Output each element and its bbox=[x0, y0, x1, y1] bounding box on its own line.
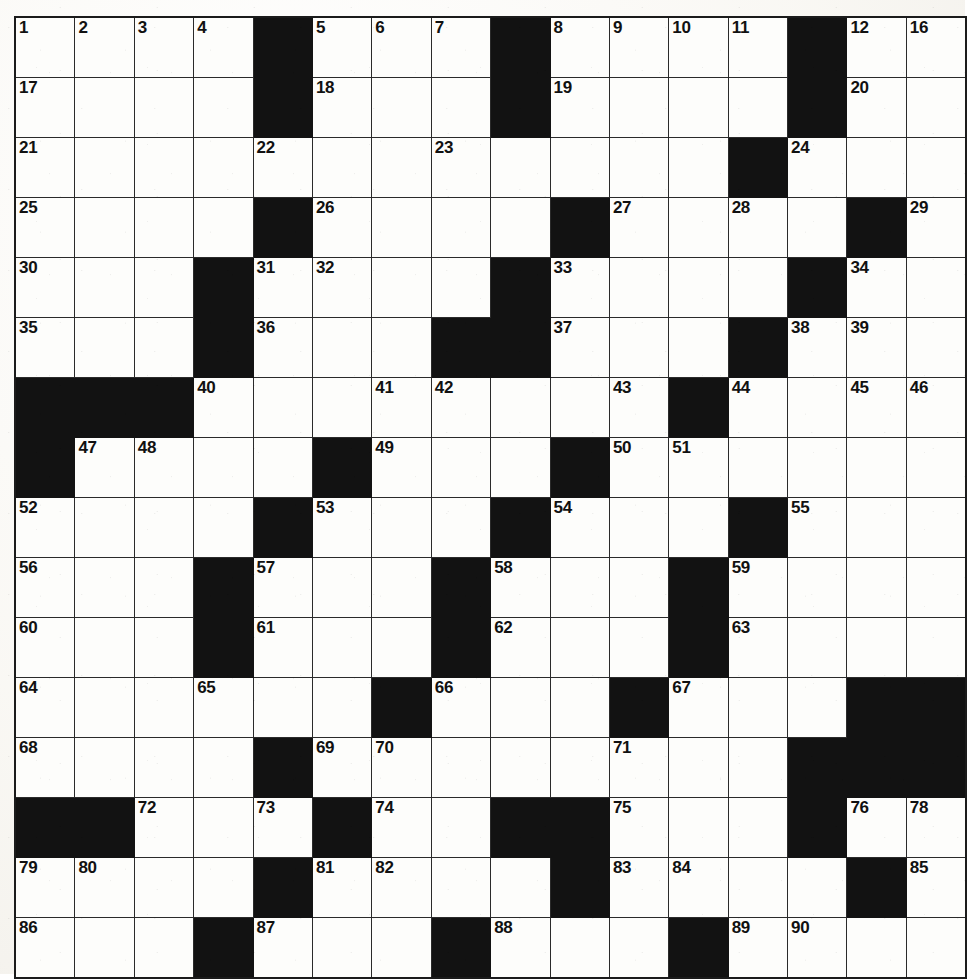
letter-cell[interactable] bbox=[550, 558, 609, 618]
letter-cell[interactable] bbox=[75, 198, 134, 258]
letter-cell[interactable] bbox=[372, 498, 431, 558]
letter-cell[interactable]: 12 bbox=[847, 17, 906, 78]
letter-cell[interactable]: 60 bbox=[15, 618, 75, 678]
letter-cell[interactable] bbox=[728, 258, 787, 318]
letter-cell[interactable] bbox=[550, 618, 609, 678]
letter-cell[interactable]: 2 bbox=[75, 17, 134, 78]
letter-cell[interactable] bbox=[728, 678, 787, 738]
letter-cell[interactable]: 27 bbox=[609, 198, 668, 258]
letter-cell[interactable] bbox=[906, 918, 966, 979]
letter-cell[interactable] bbox=[788, 378, 847, 438]
letter-cell[interactable] bbox=[847, 918, 906, 979]
letter-cell[interactable]: 78 bbox=[906, 798, 966, 858]
letter-cell[interactable]: 18 bbox=[312, 78, 371, 138]
letter-cell[interactable]: 24 bbox=[788, 138, 847, 198]
letter-cell[interactable] bbox=[194, 78, 253, 138]
letter-cell[interactable] bbox=[134, 318, 193, 378]
letter-cell[interactable] bbox=[669, 138, 728, 198]
letter-cell[interactable] bbox=[134, 678, 193, 738]
letter-cell[interactable] bbox=[253, 678, 312, 738]
letter-cell[interactable] bbox=[372, 558, 431, 618]
letter-cell[interactable]: 39 bbox=[847, 318, 906, 378]
letter-cell[interactable]: 63 bbox=[728, 618, 787, 678]
letter-cell[interactable]: 22 bbox=[253, 138, 312, 198]
letter-cell[interactable]: 23 bbox=[431, 138, 490, 198]
letter-cell[interactable]: 7 bbox=[431, 17, 490, 78]
letter-cell[interactable] bbox=[75, 258, 134, 318]
letter-cell[interactable] bbox=[728, 738, 787, 798]
letter-cell[interactable] bbox=[134, 198, 193, 258]
letter-cell[interactable] bbox=[491, 198, 550, 258]
letter-cell[interactable]: 43 bbox=[609, 378, 668, 438]
letter-cell[interactable]: 25 bbox=[15, 198, 75, 258]
letter-cell[interactable] bbox=[75, 318, 134, 378]
letter-cell[interactable]: 35 bbox=[15, 318, 75, 378]
letter-cell[interactable] bbox=[788, 198, 847, 258]
letter-cell[interactable]: 49 bbox=[372, 438, 431, 498]
letter-cell[interactable]: 58 bbox=[491, 558, 550, 618]
letter-cell[interactable]: 4 bbox=[194, 17, 253, 78]
letter-cell[interactable] bbox=[372, 618, 431, 678]
letter-cell[interactable] bbox=[491, 678, 550, 738]
letter-cell[interactable]: 31 bbox=[253, 258, 312, 318]
letter-cell[interactable] bbox=[134, 558, 193, 618]
letter-cell[interactable]: 82 bbox=[372, 858, 431, 918]
letter-cell[interactable] bbox=[134, 78, 193, 138]
letter-cell[interactable]: 73 bbox=[253, 798, 312, 858]
letter-cell[interactable]: 48 bbox=[134, 438, 193, 498]
letter-cell[interactable]: 62 bbox=[491, 618, 550, 678]
letter-cell[interactable] bbox=[312, 378, 371, 438]
letter-cell[interactable]: 81 bbox=[312, 858, 371, 918]
letter-cell[interactable]: 75 bbox=[609, 798, 668, 858]
letter-cell[interactable] bbox=[253, 378, 312, 438]
letter-cell[interactable] bbox=[847, 558, 906, 618]
letter-cell[interactable]: 42 bbox=[431, 378, 490, 438]
letter-cell[interactable] bbox=[253, 438, 312, 498]
letter-cell[interactable]: 40 bbox=[194, 378, 253, 438]
letter-cell[interactable]: 36 bbox=[253, 318, 312, 378]
letter-cell[interactable] bbox=[431, 798, 490, 858]
letter-cell[interactable]: 45 bbox=[847, 378, 906, 438]
letter-cell[interactable] bbox=[550, 378, 609, 438]
letter-cell[interactable] bbox=[491, 378, 550, 438]
letter-cell[interactable] bbox=[75, 678, 134, 738]
letter-cell[interactable] bbox=[609, 558, 668, 618]
letter-cell[interactable] bbox=[788, 558, 847, 618]
letter-cell[interactable]: 90 bbox=[788, 918, 847, 979]
letter-cell[interactable]: 37 bbox=[550, 318, 609, 378]
letter-cell[interactable] bbox=[194, 798, 253, 858]
letter-cell[interactable]: 41 bbox=[372, 378, 431, 438]
letter-cell[interactable] bbox=[847, 498, 906, 558]
crossword-grid-container[interactable]: 1234567891011121617181920212223242526272… bbox=[14, 16, 949, 961]
letter-cell[interactable]: 72 bbox=[134, 798, 193, 858]
letter-cell[interactable] bbox=[431, 198, 490, 258]
letter-cell[interactable]: 51 bbox=[669, 438, 728, 498]
letter-cell[interactable]: 6 bbox=[372, 17, 431, 78]
letter-cell[interactable]: 87 bbox=[253, 918, 312, 979]
letter-cell[interactable] bbox=[312, 558, 371, 618]
letter-cell[interactable]: 10 bbox=[669, 17, 728, 78]
letter-cell[interactable]: 59 bbox=[728, 558, 787, 618]
letter-cell[interactable] bbox=[550, 678, 609, 738]
letter-cell[interactable] bbox=[906, 78, 966, 138]
letter-cell[interactable]: 47 bbox=[75, 438, 134, 498]
letter-cell[interactable]: 54 bbox=[550, 498, 609, 558]
letter-cell[interactable]: 61 bbox=[253, 618, 312, 678]
letter-cell[interactable] bbox=[669, 318, 728, 378]
letter-cell[interactable]: 28 bbox=[728, 198, 787, 258]
letter-cell[interactable] bbox=[847, 438, 906, 498]
letter-cell[interactable] bbox=[431, 498, 490, 558]
letter-cell[interactable] bbox=[372, 138, 431, 198]
letter-cell[interactable] bbox=[728, 858, 787, 918]
crossword-grid[interactable]: 1234567891011121617181920212223242526272… bbox=[14, 16, 967, 979]
letter-cell[interactable] bbox=[669, 258, 728, 318]
letter-cell[interactable]: 44 bbox=[728, 378, 787, 438]
letter-cell[interactable] bbox=[847, 138, 906, 198]
letter-cell[interactable] bbox=[906, 258, 966, 318]
letter-cell[interactable]: 88 bbox=[491, 918, 550, 979]
letter-cell[interactable] bbox=[431, 738, 490, 798]
letter-cell[interactable] bbox=[134, 918, 193, 979]
letter-cell[interactable]: 89 bbox=[728, 918, 787, 979]
letter-cell[interactable] bbox=[609, 78, 668, 138]
letter-cell[interactable] bbox=[75, 618, 134, 678]
